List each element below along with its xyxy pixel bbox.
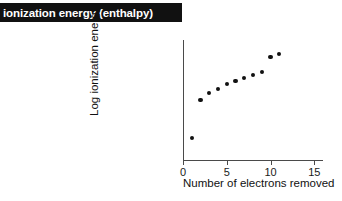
- data-point: [216, 87, 220, 91]
- x-axis-tick: [314, 161, 315, 165]
- data-point: [260, 70, 264, 74]
- data-point: [225, 82, 229, 86]
- x-axis-tick: [183, 161, 184, 165]
- data-point: [268, 55, 272, 59]
- ionization-energy-scatter-chart: 051015 Log ionization energy Number of e…: [0, 22, 342, 201]
- data-point: [190, 136, 194, 140]
- data-point: [251, 73, 255, 77]
- data-point: [277, 52, 281, 56]
- banner-title-text: ionization energy (enthalpy): [0, 7, 153, 19]
- x-axis-title: Number of electrons removed: [183, 177, 323, 189]
- x-axis-line: [183, 160, 323, 161]
- data-point: [207, 91, 211, 95]
- data-point: [233, 79, 237, 83]
- screenshot-root: ionization energy (enthalpy) 051015 Log …: [0, 0, 342, 201]
- y-axis-title: Log ionization energy: [88, 0, 104, 116]
- x-axis-tick: [227, 161, 228, 165]
- plot-area: 051015: [183, 40, 323, 160]
- y-axis-line: [183, 40, 184, 160]
- x-axis-tick: [271, 161, 272, 165]
- data-point: [198, 98, 202, 102]
- data-point: [242, 76, 246, 80]
